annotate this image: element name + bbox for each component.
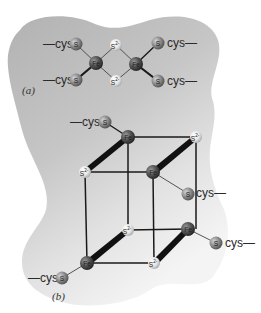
iron-atom: Fe [181, 222, 195, 236]
cys-sulfur-atom: S [56, 272, 69, 285]
svg-text:S: S [74, 41, 79, 48]
cys-sulfur-atom: S [99, 116, 112, 129]
protein-blob-background [8, 16, 228, 305]
svg-text:S: S [60, 275, 65, 282]
cys-ligand-label: —cys [28, 271, 58, 285]
svg-text:Fe: Fe [124, 134, 132, 141]
cys-sulfur-atom: S [152, 37, 165, 50]
cys-sulfur-atom: S [70, 38, 83, 51]
iron-atom: Fe [146, 165, 160, 179]
svg-text:S: S [186, 191, 191, 198]
sulfide-atom: S2- [110, 75, 122, 87]
sulfide-atom: S2- [110, 39, 122, 51]
svg-text:Fe: Fe [132, 61, 140, 68]
sulfide-atom: S2- [190, 131, 202, 143]
svg-text:S: S [156, 78, 161, 85]
iron-atom: Fe [129, 57, 143, 71]
iron-atom: Fe [121, 130, 135, 144]
sulfide-atom: S2- [122, 224, 134, 236]
svg-text:Fe: Fe [83, 260, 91, 267]
cys-ligand-label: cys— [196, 186, 226, 200]
cys-ligand-label: —cys [43, 37, 73, 51]
svg-text:Fe: Fe [92, 60, 100, 67]
cys-sulfur-atom: S [70, 74, 83, 87]
iron-atom: Fe [80, 256, 94, 270]
iron-atom: Fe [89, 56, 103, 70]
svg-text:S: S [156, 40, 161, 47]
cys-ligand-label: —cys [43, 73, 73, 87]
svg-text:S: S [74, 77, 79, 84]
cys-sulfur-atom: S [152, 75, 165, 88]
panel-b-label: (b) [52, 290, 65, 303]
cys-ligand-label: cys— [225, 236, 255, 250]
cube-edge [128, 229, 188, 230]
cys-sulfur-atom: S [182, 188, 195, 201]
cube-edge [153, 172, 154, 263]
cys-ligand-label: —cys [70, 115, 100, 129]
sulfide-atom: S2- [79, 166, 91, 178]
cys-ligand-label: cys— [167, 36, 197, 50]
svg-text:S: S [214, 240, 219, 247]
sulfide-atom: S2- [148, 257, 160, 269]
cys-sulfur-atom: S [210, 237, 223, 250]
iron-sulfur-cluster-diagram: —cys —cys cys— cys— S S S S S2- S2- [0, 0, 261, 313]
svg-text:Fe: Fe [149, 169, 157, 176]
panel-a-label: (a) [22, 84, 35, 97]
svg-text:Fe: Fe [184, 226, 192, 233]
cys-ligand-label: cys— [167, 74, 197, 88]
svg-text:S: S [103, 119, 108, 126]
